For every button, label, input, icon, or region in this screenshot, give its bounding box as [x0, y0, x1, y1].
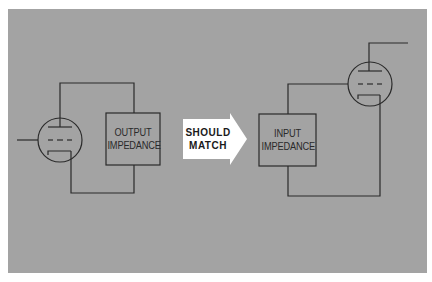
should-match-line1: SHOULD [185, 126, 231, 139]
input-impedance-line1: INPUT [262, 127, 314, 140]
output-impedance-line1: OUTPUT [107, 126, 158, 139]
right-grid-wire [288, 84, 348, 114]
should-match-label: SHOULD MATCH [185, 126, 231, 152]
input-impedance-label: INPUT IMPEDANCE [262, 127, 314, 153]
output-impedance-line2: IMPEDANCE [107, 139, 158, 152]
output-impedance-label: OUTPUT IMPEDANCE [107, 126, 158, 152]
right-vacuum-tube-icon [348, 62, 392, 106]
input-impedance-line2: IMPEDANCE [262, 140, 314, 153]
should-match-line2: MATCH [185, 139, 231, 152]
right-plate-wire [369, 43, 408, 71]
left-cathode-wire [71, 151, 134, 193]
